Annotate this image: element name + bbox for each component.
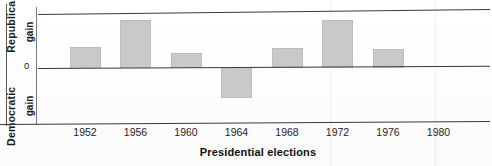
y-axis-republican-gain-label: gain xyxy=(23,22,34,43)
y-axis-line xyxy=(36,7,37,125)
x-tick-1968: 1968 xyxy=(267,126,307,138)
x-tick-1972: 1972 xyxy=(318,126,358,138)
y-axis-democratic-gain-label: gain xyxy=(23,96,34,117)
x-tick-1964: 1964 xyxy=(217,126,257,138)
y-axis-title-top: Republican xyxy=(5,0,17,53)
bar-1960 xyxy=(171,53,202,68)
x-tick-1960: 1960 xyxy=(166,126,206,138)
y-axis-zero-tick-label: 0 xyxy=(24,61,29,71)
bar-1952 xyxy=(70,47,101,68)
y-axis-title: DemocraticRepublican xyxy=(2,6,20,134)
x-axis-title: Presidential elections xyxy=(0,146,492,158)
x-tick-1952: 1952 xyxy=(65,126,105,138)
bar-1964 xyxy=(221,68,252,98)
x-tick-1976: 1976 xyxy=(368,126,408,138)
bar-1972 xyxy=(322,20,353,68)
chart-figure: DemocraticRepublican gain gain 0 1952195… xyxy=(0,0,492,166)
x-tick-1980: 1980 xyxy=(419,126,459,138)
x-axis-tick-labels: 19521956196019641968197219761980 xyxy=(38,126,490,142)
bar-1968 xyxy=(272,48,303,68)
x-tick-1956: 1956 xyxy=(116,126,156,138)
y-axis-title-bottom: Democratic xyxy=(5,87,17,146)
plot-area xyxy=(38,6,488,128)
bar-1956 xyxy=(120,20,151,68)
